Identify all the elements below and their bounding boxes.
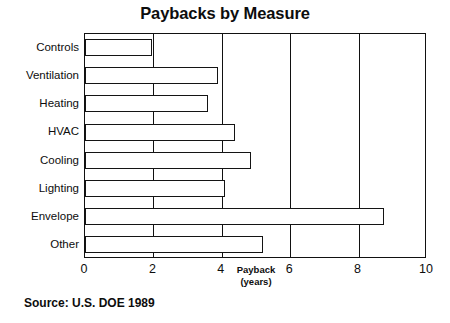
bar-lighting	[85, 180, 225, 197]
bar-cooling	[85, 152, 251, 169]
category-label-heating: Heating	[0, 97, 79, 109]
category-label-envelope: Envelope	[0, 210, 79, 222]
bar-row	[85, 90, 425, 118]
plot-area	[84, 33, 426, 258]
category-label-lighting: Lighting	[0, 182, 79, 194]
x-axis-title-line1: Payback	[222, 264, 290, 276]
category-label-other: Other	[0, 238, 79, 250]
source-note: Source: U.S. DOE 1989	[24, 296, 155, 310]
x-tick-label-10: 10	[406, 262, 446, 276]
category-label-ventilation: Ventilation	[0, 69, 79, 81]
x-tick-label-8: 8	[338, 262, 378, 276]
chart-title: Paybacks by Measure	[0, 4, 450, 23]
bar-row	[85, 203, 425, 231]
bar-row	[85, 175, 425, 203]
bar-row	[85, 62, 425, 90]
bar-heating	[85, 95, 208, 112]
payback-bar-chart: Paybacks by Measure ControlsVentilationH…	[0, 0, 450, 323]
bar-row	[85, 147, 425, 175]
bar-ventilation	[85, 67, 218, 84]
bar-row	[85, 118, 425, 146]
bar-hvac	[85, 124, 235, 141]
bar-row	[85, 34, 425, 62]
category-label-controls: Controls	[0, 41, 79, 53]
x-axis-title: Payback (years)	[222, 264, 290, 287]
bar-other	[85, 236, 263, 253]
x-tick-label-2: 2	[132, 262, 172, 276]
bar-envelope	[85, 208, 384, 225]
x-axis-title-line2: (years)	[222, 276, 290, 288]
x-tick-label-0: 0	[64, 262, 104, 276]
category-label-cooling: Cooling	[0, 154, 79, 166]
bar-controls	[85, 39, 152, 56]
category-label-hvac: HVAC	[0, 125, 79, 137]
bar-row	[85, 231, 425, 259]
